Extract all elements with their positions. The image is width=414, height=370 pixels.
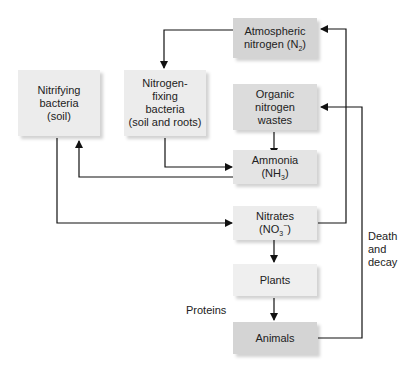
node-text: Organic <box>255 88 295 101</box>
node-plants: Plants <box>233 264 317 296</box>
label-line: and <box>368 243 397 256</box>
node-text: (soil) <box>38 110 81 123</box>
node-ammonia: Ammonia (NH3) <box>233 150 317 184</box>
node-text: Atmospheric <box>244 25 306 38</box>
node-nitrates: Nitrates (NO3−) <box>233 206 317 240</box>
node-text: nitrogen (N2) <box>244 38 306 51</box>
node-text: (NH3) <box>252 167 298 180</box>
label-death-and-decay: Death and decay <box>368 230 397 269</box>
node-text: nitrogen <box>255 101 295 114</box>
node-text: wastes <box>255 114 295 127</box>
node-animals: Animals <box>233 322 317 354</box>
node-text: Nitrogen- <box>129 77 202 90</box>
label-proteins: Proteins <box>186 304 226 317</box>
node-text: fixing <box>129 90 202 103</box>
node-text: (soil and roots) <box>129 116 202 129</box>
node-text: Plants <box>260 274 291 287</box>
node-nitrogen-fixing-bacteria: Nitrogen- fixing bacteria (soil and root… <box>124 70 206 136</box>
node-text: Nitrifying <box>38 84 81 97</box>
node-text: bacteria <box>38 97 81 110</box>
node-text: Ammonia <box>252 154 298 167</box>
node-text: Nitrates <box>256 210 294 223</box>
node-text: (NO3−) <box>256 223 294 236</box>
node-nitrifying-bacteria: Nitrifying bacteria (soil) <box>18 70 100 136</box>
node-text: bacteria <box>129 103 202 116</box>
node-organic-nitrogen-wastes: Organic nitrogen wastes <box>233 84 317 130</box>
label-line: decay <box>368 256 397 269</box>
node-atmospheric-nitrogen: Atmospheric nitrogen (N2) <box>233 18 317 58</box>
label-line: Death <box>368 230 397 243</box>
node-text: Animals <box>255 332 294 345</box>
